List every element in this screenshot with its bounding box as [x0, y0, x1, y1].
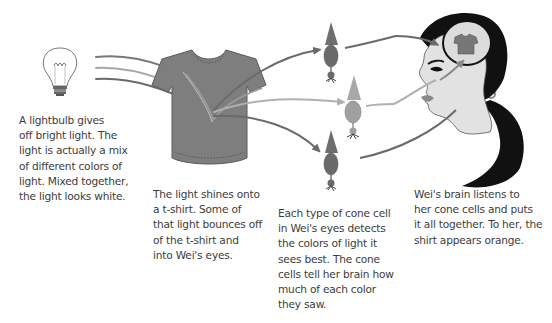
tshirt-icon [152, 50, 266, 164]
head-brain-icon [345, 13, 524, 187]
color-vision-diagram: A lightbulb gives off bright light. The … [0, 0, 552, 323]
caption-tshirt: The light shines onto a t-shirt. Some of… [153, 187, 278, 263]
caption-brain: Wei's brain listens to her cone cells an… [414, 187, 549, 248]
lightbulb-icon [43, 48, 76, 96]
caption-cone-cells: Each type of cone cell in Wei's eyes det… [278, 206, 408, 312]
cone-cell-bottom [324, 130, 338, 191]
cone-cell-middle [345, 75, 361, 139]
caption-lightbulb: A lightbulb gives off bright light. The … [19, 113, 139, 204]
cone-cell-top [324, 22, 338, 83]
